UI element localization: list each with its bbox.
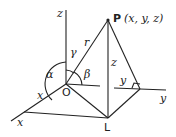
- point-p-label: P: [113, 12, 121, 25]
- origin-label: O: [62, 86, 71, 99]
- x-to-l-line: [24, 112, 108, 118]
- point-coords-label: (x, y, z): [124, 12, 163, 25]
- z-axis-label: z: [56, 7, 63, 20]
- r-label: r: [84, 36, 90, 49]
- beta-arc: [74, 72, 82, 85]
- o-to-l-line: [66, 84, 108, 118]
- y-to-l-line: [108, 89, 140, 118]
- y-axis-label: y: [159, 92, 167, 105]
- z-segment-label: z: [110, 56, 117, 69]
- direction-angles-diagram: z P (x, y, z) r γ β α z y x O L y x: [0, 0, 176, 137]
- x-segment-label: x: [37, 89, 44, 102]
- y-axis-segment: [66, 84, 100, 86]
- x-axis-label: x: [17, 116, 24, 129]
- y-segment-label: y: [119, 74, 127, 87]
- alpha-label: α: [46, 68, 54, 81]
- gamma-label: γ: [70, 46, 77, 59]
- point-p: [106, 18, 109, 21]
- gamma-arc: [66, 70, 74, 73]
- beta-label: β: [83, 68, 90, 81]
- foot-label: L: [104, 121, 111, 134]
